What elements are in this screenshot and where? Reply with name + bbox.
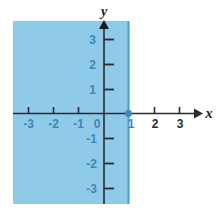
x-label-origin: 0 <box>94 117 101 131</box>
shaded-region <box>13 21 129 204</box>
x-label-pos3: 3 <box>177 117 184 131</box>
graph-canvas: -3 -2 -1 0 1 2 3 3 2 1 -1 -2 -3 y x <box>0 0 221 214</box>
y-axis-label: y <box>99 4 108 19</box>
x-axis-label: x <box>205 106 213 121</box>
endpoint-dot <box>125 110 132 117</box>
coordinate-plane-graph: -3 -2 -1 0 1 2 3 3 2 1 -1 -2 -3 y x <box>0 0 221 214</box>
y-label-neg1: -1 <box>86 132 97 146</box>
y-label-pos3: 3 <box>89 33 96 47</box>
y-label-neg2: -2 <box>86 157 97 171</box>
x-label-neg3: -3 <box>23 117 34 131</box>
x-label-pos1: 1 <box>128 117 135 131</box>
x-label-neg1: -1 <box>73 117 84 131</box>
x-label-neg2: -2 <box>48 117 59 131</box>
y-label-neg3: -3 <box>86 182 97 196</box>
x-axis-arrowhead <box>194 109 203 119</box>
x-label-pos2: 2 <box>152 117 159 131</box>
y-label-pos1: 1 <box>89 83 96 97</box>
y-label-pos2: 2 <box>89 58 96 72</box>
